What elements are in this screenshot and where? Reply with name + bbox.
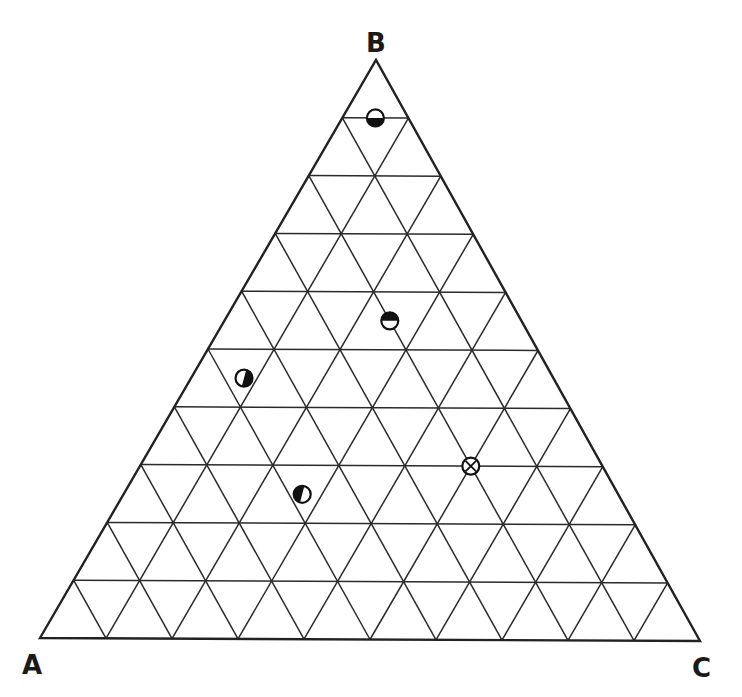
grid-line xyxy=(275,233,473,234)
ternary-diagram: A B C xyxy=(0,0,742,697)
grid-line xyxy=(208,349,370,640)
grid-line xyxy=(74,580,668,583)
grid-line xyxy=(502,467,603,640)
data-point-5 xyxy=(462,458,479,475)
triangle-outline xyxy=(40,60,700,641)
grid-line xyxy=(370,351,538,640)
grid-lines xyxy=(74,118,668,641)
data-point-1 xyxy=(367,109,384,126)
grid-line xyxy=(634,583,668,641)
ternary-plot xyxy=(0,0,742,697)
grid-line xyxy=(106,118,408,638)
grid-line xyxy=(242,291,506,292)
grid-line xyxy=(208,349,538,351)
data-point-4 xyxy=(294,486,311,503)
grid-line xyxy=(309,176,441,177)
grid-line xyxy=(342,118,634,641)
grid-line xyxy=(141,465,238,639)
grid-line xyxy=(74,580,106,638)
grid-line xyxy=(141,465,603,467)
grid-line xyxy=(275,233,502,640)
grid-line xyxy=(238,234,473,639)
grid-line xyxy=(174,407,570,409)
data-points xyxy=(236,109,480,502)
vertex-label-b: B xyxy=(366,30,386,56)
vertex-label-c: C xyxy=(692,655,711,681)
data-point-2 xyxy=(381,312,398,329)
vertex-label-a: A xyxy=(22,652,42,678)
data-point-3 xyxy=(236,370,253,387)
